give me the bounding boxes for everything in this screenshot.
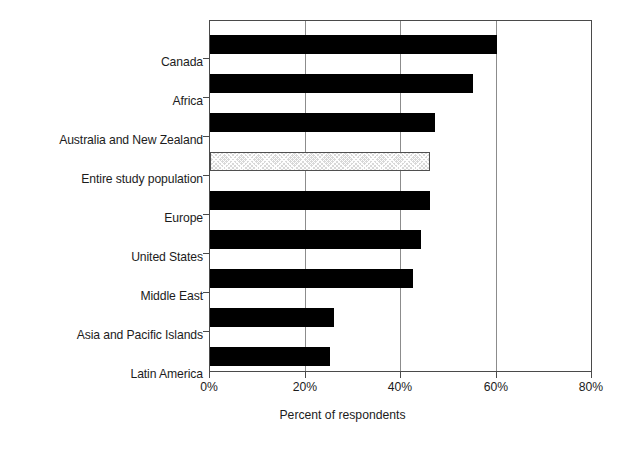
category-label-united-states: United States — [0, 251, 203, 264]
category-label-canada: Canada — [0, 56, 203, 69]
x-axis-tick — [591, 372, 592, 378]
plot-inner — [210, 21, 591, 371]
category-label-entire-study-population: Entire study population — [0, 173, 203, 186]
bar-latin-america — [210, 347, 330, 366]
gridline-60-percent — [496, 21, 497, 371]
x-tick-label-60: 60% — [484, 380, 508, 394]
bar-middle-east — [210, 269, 413, 288]
x-axis-tick — [400, 372, 401, 378]
bar-canada — [210, 35, 497, 54]
x-axis-tick — [209, 372, 210, 378]
bar-united-states — [210, 230, 421, 249]
x-axis-tick — [496, 372, 497, 378]
category-label-latin-america: Latin America — [0, 368, 203, 381]
x-tick-label-80: 80% — [579, 380, 603, 394]
bar-entire-study-population — [210, 152, 430, 171]
category-label-middle-east: Middle East — [0, 290, 203, 303]
x-tick-label-0: 0% — [200, 380, 218, 394]
category-label-australia-and-new-zealand: Australia and New Zealand — [0, 134, 203, 147]
category-axis-labels: Canada Africa Australia and New Zealand … — [0, 20, 203, 372]
x-tick-label-20: 20% — [293, 380, 317, 394]
x-axis-title: Percent of respondents — [279, 408, 405, 422]
x-axis-tick — [305, 372, 306, 378]
category-label-asia-and-pacific-islands: Asia and Pacific Islands — [0, 329, 203, 342]
category-label-europe: Europe — [0, 212, 203, 225]
bar-australia-and-new-zealand — [210, 113, 435, 132]
bar-chart-figure: Canada Africa Australia and New Zealand … — [0, 0, 619, 450]
bar-africa — [210, 74, 473, 93]
bar-europe — [210, 191, 430, 210]
bar-asia-and-pacific-islands — [210, 308, 334, 327]
category-label-africa: Africa — [0, 95, 203, 108]
x-axis-title-wrapper: Percent of respondents — [0, 408, 619, 422]
plot-area — [209, 20, 592, 372]
x-tick-label-40: 40% — [388, 380, 412, 394]
